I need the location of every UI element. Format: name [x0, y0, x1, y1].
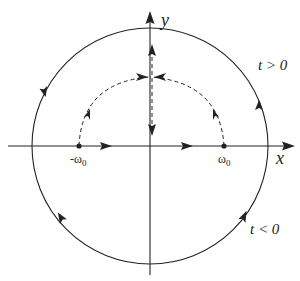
- pos-omega0-label: ω0: [218, 152, 231, 168]
- neg-omega0-label: -ω0: [70, 152, 87, 168]
- x-axis: [8, 142, 295, 151]
- upper-region-label: t > 0: [258, 57, 288, 73]
- trajectory-arrow-icon: [136, 73, 148, 81]
- contour-diagram: y x -ω0 ω0 t > 0 t < 0: [0, 0, 300, 281]
- x-axis-label: x: [275, 148, 284, 168]
- y-axis-label: y: [159, 10, 169, 30]
- right-trajectory: [150, 77, 224, 146]
- trajectory-arrow-icon: [148, 124, 156, 136]
- neg-omega0-point: [76, 143, 81, 148]
- lower-region-label: t < 0: [250, 221, 280, 237]
- trajectory-arrow-icon: [84, 109, 90, 120]
- contour-arrow-icon: [238, 209, 250, 223]
- trajectory-arrow-icon: [148, 44, 156, 56]
- pos-omega0-point: [221, 143, 226, 148]
- trajectory-arrow-icon: [154, 73, 166, 81]
- contour-arrow-icon: [40, 86, 51, 98]
- contour-arrow-icon: [255, 100, 263, 110]
